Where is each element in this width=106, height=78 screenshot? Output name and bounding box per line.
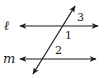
line-l-label: ℓ: [4, 18, 10, 33]
geometry-diagram: ℓ m 3 1 2: [0, 0, 106, 78]
line-m-label: m: [3, 51, 15, 66]
angle-1-label: 1: [65, 29, 72, 42]
angle-2-label: 2: [55, 44, 62, 57]
angle-3-label: 3: [77, 11, 84, 24]
